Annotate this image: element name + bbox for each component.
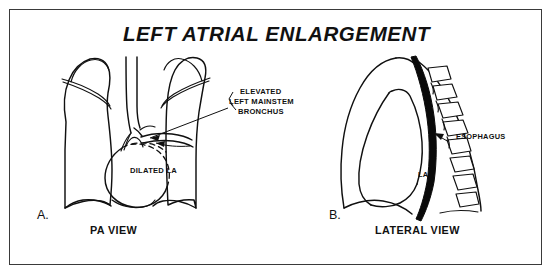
panel-a-letter: A. <box>37 208 49 222</box>
bronchus-secondary-arrowhead <box>156 141 165 147</box>
bronchus-callout-line-1: ELEVATED <box>240 87 281 96</box>
figure-root: LEFT ATRIAL ENLARGEMENT ELEVATED LEFT MA… <box>0 0 553 280</box>
pa-left-apex-arc <box>164 59 202 81</box>
lat-spinous-process <box>442 119 444 130</box>
pa-view-illustration <box>62 57 236 208</box>
dilated-la-label: DILATED LA <box>130 166 177 175</box>
pa-right-clavicle-lower <box>63 82 111 109</box>
la-label: LA <box>418 170 428 179</box>
pa-right-apex-arc <box>71 59 109 82</box>
vertebra-body <box>438 102 463 118</box>
bronchus-callout-line-2: LEFT MAINSTEM <box>229 97 294 106</box>
lat-posterior-diaphragm <box>440 211 478 213</box>
pa-right-diaphragm <box>65 200 111 208</box>
vertebra-body <box>453 174 477 190</box>
vertebra-body <box>450 156 474 172</box>
lat-spinous-process <box>431 83 433 94</box>
pa-dilated-la-solid-arc <box>105 148 167 207</box>
esophagus-label: ESOPHAGUS <box>456 132 505 141</box>
vertebra-body <box>433 84 457 100</box>
panel-b-caption: LATERAL VIEW <box>375 224 460 236</box>
vertebra-body <box>428 66 451 82</box>
pa-aortic-knob <box>140 126 155 130</box>
bronchus-leader-line <box>150 108 228 138</box>
panel-a-caption: PA VIEW <box>90 224 137 236</box>
figure-title: LEFT ATRIAL ENLARGEMENT <box>0 22 553 46</box>
vertebra-body <box>456 192 479 207</box>
pa-trachea-right-wall <box>137 57 140 128</box>
lat-heart-anterior-border <box>359 93 389 205</box>
pa-left-lung-outline <box>166 58 206 208</box>
bronchus-callout-line-3: BRONCHUS <box>238 107 284 116</box>
lat-spinous-process <box>436 101 438 112</box>
pa-trachea-left-wall <box>126 57 131 133</box>
pa-right-clavicle <box>62 79 110 106</box>
panel-b-letter: B. <box>329 208 341 222</box>
